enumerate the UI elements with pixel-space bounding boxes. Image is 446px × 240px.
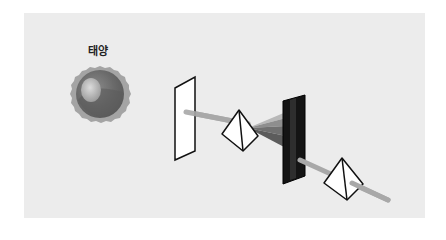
slit-screen bbox=[175, 77, 195, 160]
dark-screen-with-slit bbox=[283, 95, 305, 184]
prism-1 bbox=[222, 110, 258, 151]
sun-icon bbox=[70, 66, 131, 123]
prism-2 bbox=[324, 158, 363, 200]
prism-experiment-diagram bbox=[0, 0, 446, 240]
